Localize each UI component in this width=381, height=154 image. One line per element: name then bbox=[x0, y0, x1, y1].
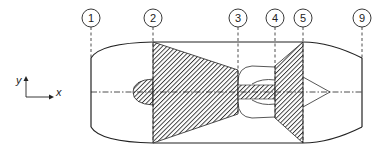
y-axis-label: y bbox=[15, 74, 23, 86]
station-marker-1: 1 bbox=[82, 9, 100, 27]
coordinate-axes: y x bbox=[15, 74, 62, 100]
turbine-section bbox=[275, 42, 303, 143]
station-label: 5 bbox=[300, 12, 306, 24]
compressor-section bbox=[153, 42, 238, 143]
station-label: 4 bbox=[272, 12, 278, 24]
station-label: 2 bbox=[150, 12, 156, 24]
station-marker-5: 5 bbox=[294, 9, 312, 27]
station-label: 9 bbox=[359, 12, 365, 24]
station-label: 1 bbox=[88, 12, 94, 24]
engine-schematic: 1 2 3 4 5 9 y x bbox=[0, 0, 381, 154]
station-marker-2: 2 bbox=[144, 9, 162, 27]
station-marker-3: 3 bbox=[229, 9, 247, 27]
station-marker-9: 9 bbox=[353, 9, 371, 27]
y-arrow-icon bbox=[24, 76, 29, 81]
x-axis-label: x bbox=[55, 86, 62, 98]
x-arrow-icon bbox=[49, 95, 54, 100]
station-marker-4: 4 bbox=[266, 9, 284, 27]
station-label: 3 bbox=[235, 12, 241, 24]
